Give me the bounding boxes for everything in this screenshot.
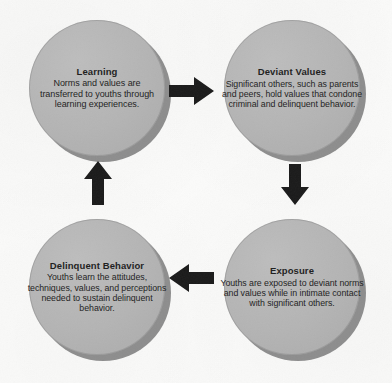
arrow-up-icon (83, 160, 113, 206)
node-deviant-values[interactable]: Deviant Values Significant others, such … (224, 20, 360, 156)
node-exposure[interactable]: Exposure Youths are exposed to deviant n… (224, 219, 360, 355)
node-deviant-values-label: Deviant Values Significant others, such … (218, 20, 366, 156)
node-delinquent-behavior[interactable]: Delinquent Behavior Youths learn the att… (29, 219, 165, 355)
node-learning-label: Learning Norms and values are transferre… (31, 20, 163, 156)
node-learning-title: Learning (77, 66, 118, 77)
cycle-diagram: Learning Norms and values are transferre… (0, 0, 392, 383)
node-exposure-label: Exposure Youths are exposed to deviant n… (218, 219, 366, 355)
arrow-down-icon (280, 164, 310, 206)
arrow-left-icon (169, 263, 215, 293)
node-learning[interactable]: Learning Norms and values are transferre… (29, 20, 165, 156)
arrow-right-icon (169, 76, 215, 106)
node-learning-body: Norms and values are transferred to yout… (31, 78, 163, 110)
node-exposure-body: Youths are exposed to deviant norms and … (218, 278, 366, 309)
node-exposure-title: Exposure (270, 265, 314, 276)
node-deviant-values-title: Deviant Values (258, 66, 326, 77)
node-delinquent-behavior-title: Delinquent Behavior (50, 260, 144, 271)
node-delinquent-behavior-body: Youths learn the attitudes, techniques, … (23, 272, 171, 314)
node-delinquent-behavior-label: Delinquent Behavior Youths learn the att… (23, 219, 171, 355)
node-deviant-values-body: Significant others, such as parents and … (218, 79, 366, 110)
